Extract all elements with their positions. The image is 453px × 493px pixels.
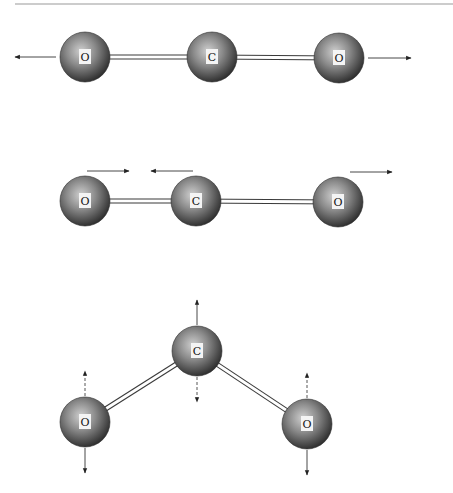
co2-vibrational-modes-diagram: OCOOCOCOO (0, 0, 453, 493)
atom-label: O (333, 196, 342, 209)
carbon-atom: C (171, 176, 221, 226)
oxygen-atom: O (313, 177, 363, 227)
oxygen-atom: O (282, 399, 332, 449)
oxygen-atom: O (60, 397, 110, 447)
atom-label: C (208, 51, 216, 64)
oxygen-atom: O (60, 32, 110, 82)
carbon-atom: C (187, 32, 237, 82)
atom-label: O (80, 51, 89, 64)
atom-label: O (80, 195, 89, 208)
atom-label: O (334, 52, 343, 65)
carbon-atom: C (172, 326, 222, 376)
atom-label: C (192, 195, 200, 208)
atoms-layer: OCOOCOCOO (60, 32, 364, 449)
atom-label: O (302, 418, 311, 431)
atom-label: O (80, 416, 89, 429)
oxygen-atom: O (60, 176, 110, 226)
atom-label: C (193, 345, 201, 358)
oxygen-atom: O (314, 33, 364, 83)
